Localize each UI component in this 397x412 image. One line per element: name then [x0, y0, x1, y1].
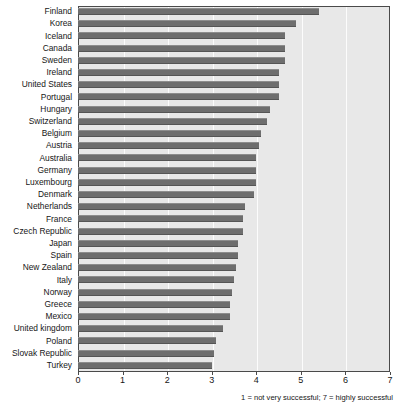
bar-row — [78, 348, 390, 360]
bar — [78, 252, 238, 259]
bar-row — [78, 250, 390, 262]
category-label: France — [46, 215, 72, 224]
bar — [78, 106, 270, 113]
category-label: Finland — [45, 7, 72, 16]
category-label: Netherlands — [27, 202, 72, 211]
bar-row — [78, 43, 390, 55]
bar — [78, 93, 279, 100]
bar — [78, 289, 232, 296]
category-label: Sweden — [42, 56, 72, 65]
bar-row — [78, 201, 390, 213]
bar-row — [78, 79, 390, 91]
bar-row — [78, 287, 390, 299]
bar-row — [78, 140, 390, 152]
bar-row — [78, 91, 390, 103]
bar-row — [78, 189, 390, 201]
bar — [78, 32, 285, 39]
bar — [78, 276, 234, 283]
bar-row — [78, 30, 390, 42]
category-label: United States — [22, 80, 72, 89]
bar-series — [78, 6, 390, 372]
bar — [78, 81, 279, 88]
x-tick-label: 4 — [246, 375, 266, 385]
bar — [78, 313, 230, 320]
x-tick-label: 0 — [68, 375, 88, 385]
bar — [78, 337, 216, 344]
category-label: Australia — [39, 154, 72, 163]
bar — [78, 228, 243, 235]
category-axis-labels: FinlandKoreaIcelandCanadaSwedenIrelandUn… — [0, 6, 75, 372]
bar — [78, 142, 259, 149]
category-label: Ireland — [46, 68, 72, 77]
bar — [78, 57, 285, 64]
x-tick-label: 2 — [157, 375, 177, 385]
x-tick-label: 3 — [202, 375, 222, 385]
category-label: Iceland — [45, 32, 72, 41]
category-label: Hungary — [40, 105, 72, 114]
bar-chart: FinlandKoreaIcelandCanadaSwedenIrelandUn… — [0, 0, 397, 412]
bar — [78, 350, 214, 357]
category-label: Slovak Republic — [12, 349, 72, 358]
bar — [78, 325, 223, 332]
bar — [78, 215, 243, 222]
category-label: Austria — [46, 141, 72, 150]
category-label: Denmark — [38, 190, 72, 199]
bar — [78, 179, 256, 186]
category-label: Turkey — [47, 361, 72, 370]
category-label: Italy — [57, 276, 72, 285]
bar — [78, 240, 238, 247]
x-tick-label: 1 — [113, 375, 133, 385]
bar-row — [78, 6, 390, 18]
bar — [78, 20, 296, 27]
bar — [78, 167, 256, 174]
bar-row — [78, 67, 390, 79]
bar — [78, 45, 285, 52]
category-label: Czech Republic — [13, 227, 72, 236]
category-label: Korea — [50, 19, 72, 28]
category-label: Canada — [43, 44, 72, 53]
bar-row — [78, 238, 390, 250]
category-label: Portugal — [41, 93, 72, 102]
bar-row — [78, 213, 390, 225]
bar — [78, 191, 254, 198]
category-label: Spain — [51, 251, 72, 260]
bar-row — [78, 335, 390, 347]
bar — [78, 203, 245, 210]
bar-row — [78, 128, 390, 140]
category-label: United kingdom — [14, 324, 72, 333]
bar-row — [78, 360, 390, 372]
bar — [78, 301, 230, 308]
bar-row — [78, 55, 390, 67]
bar-row — [78, 18, 390, 30]
axis-caption: 1 = not very successful; 7 = highly succ… — [0, 393, 393, 402]
category-label: Poland — [46, 337, 72, 346]
category-label: Mexico — [45, 312, 72, 321]
bar-row — [78, 104, 390, 116]
bar-row — [78, 262, 390, 274]
category-label: Norway — [44, 288, 72, 297]
bar — [78, 154, 256, 161]
bar-row — [78, 152, 390, 164]
bar-row — [78, 299, 390, 311]
bar — [78, 69, 279, 76]
bar-row — [78, 311, 390, 323]
x-tick-label: 5 — [291, 375, 311, 385]
bar — [78, 362, 212, 369]
bar — [78, 8, 319, 15]
category-label: Greece — [45, 300, 72, 309]
category-label: Luxembourg — [25, 178, 72, 187]
bar-row — [78, 226, 390, 238]
bar-row — [78, 323, 390, 335]
x-tick-label: 6 — [335, 375, 355, 385]
bar — [78, 130, 261, 137]
category-label: Belgium — [42, 129, 72, 138]
x-axis: 01234567 — [78, 372, 390, 388]
bar — [78, 118, 267, 125]
category-label: Japan — [49, 239, 72, 248]
bar — [78, 264, 236, 271]
bar-row — [78, 116, 390, 128]
bar-row — [78, 274, 390, 286]
bar-row — [78, 177, 390, 189]
bar-row — [78, 165, 390, 177]
category-label: Germany — [38, 166, 72, 175]
